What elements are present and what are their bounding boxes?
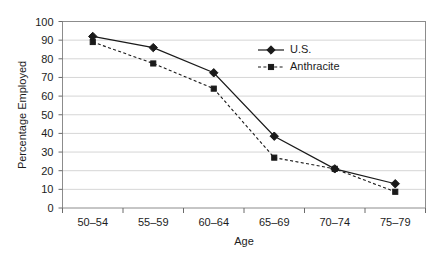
data-point-marker xyxy=(90,39,95,44)
data-point-marker xyxy=(211,86,216,91)
data-point-marker xyxy=(272,155,277,160)
data-point-marker xyxy=(393,189,398,194)
x-axis-tick-label: 75–79 xyxy=(380,216,411,228)
line-chart: 0102030405060708090100 50–5455–5960–6465… xyxy=(0,0,448,258)
x-axis-title: Age xyxy=(234,235,254,247)
chart-container: 0102030405060708090100 50–5455–5960–6465… xyxy=(0,0,448,258)
data-point-marker xyxy=(151,61,156,66)
y-axis-tick-label: 60 xyxy=(41,90,53,102)
y-axis-tick-label: 0 xyxy=(47,202,53,214)
x-axis-tick-label: 65–69 xyxy=(259,216,290,228)
data-point-marker xyxy=(332,166,337,171)
y-axis-tick-label: 90 xyxy=(41,34,53,46)
y-axis-tick-label: 50 xyxy=(41,109,53,121)
data-point-marker xyxy=(268,64,273,69)
y-axis-tick-label: 40 xyxy=(41,127,53,139)
y-axis-tick-label: 10 xyxy=(41,183,53,195)
y-axis-tick-label: 70 xyxy=(41,71,53,83)
x-axis-tick-label: 70–74 xyxy=(319,216,350,228)
y-axis-title: Percentage Employed xyxy=(16,61,28,169)
y-axis-tick-label: 20 xyxy=(41,165,53,177)
y-axis-tick-label: 100 xyxy=(35,16,53,28)
y-axis-tick-label: 30 xyxy=(41,146,53,158)
y-axis-tick-label: 80 xyxy=(41,53,53,65)
legend-label: Anthracite xyxy=(290,60,340,72)
x-axis-tick-label: 60–64 xyxy=(198,216,229,228)
x-axis-tick-label: 55–59 xyxy=(138,216,169,228)
legend-label: U.S. xyxy=(290,43,311,55)
x-axis-tick-label: 50–54 xyxy=(77,216,108,228)
